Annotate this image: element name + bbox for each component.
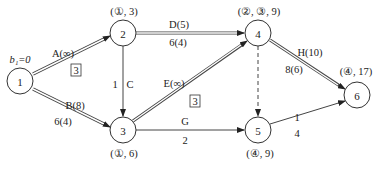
- edge-3-4-boxed: 3: [192, 96, 197, 107]
- node-2-label: 2: [120, 28, 126, 40]
- edge-1-3-lower: 6(4): [54, 116, 72, 128]
- node-6: 6: [344, 82, 370, 108]
- edge-5-6-name: 1: [294, 112, 299, 123]
- edge-2-3-lower: 1: [112, 79, 117, 90]
- node-1: 1: [7, 68, 33, 94]
- node-1-label: 1: [17, 76, 23, 88]
- node-3-annotation: (①, 6): [110, 148, 138, 160]
- edge-5-6: [270, 101, 345, 124]
- edge-2-3-name: C: [126, 79, 133, 90]
- network-diagram: 1 2 3 4 5 6 b₁=0 (①, 3) (①, 6) (②, ③, 9)…: [0, 0, 377, 174]
- edge-3-5-lower: 2: [182, 135, 187, 146]
- node-6-label: 6: [354, 90, 360, 102]
- node-4: 4: [245, 20, 271, 46]
- edge-3-5-name: G: [181, 116, 189, 127]
- edge-5-6-lower: 4: [294, 128, 300, 139]
- node-3: 3: [110, 117, 136, 143]
- edge-3-4: [133, 41, 247, 121]
- edge-3-4-name: E(∞): [164, 78, 185, 90]
- node-3-label: 3: [120, 125, 126, 137]
- node-6-annotation: (④, 17): [340, 66, 373, 78]
- edge-1-3-name: B(8): [65, 100, 85, 112]
- edge-1-2-name: A(∞): [52, 48, 75, 60]
- node-5: 5: [245, 117, 271, 143]
- edge-2-4-name: D(5): [169, 19, 189, 31]
- source-label: b₁=0: [9, 54, 31, 65]
- node-4-annotation: (②, ③, 9): [238, 6, 281, 18]
- edge-4-6-lower: 8(6): [285, 64, 303, 76]
- node-5-annotation: (④, 9): [246, 148, 274, 160]
- node-2-annotation: (①, 3): [110, 6, 138, 18]
- node-5-label: 5: [255, 125, 261, 137]
- node-2: 2: [110, 20, 136, 46]
- edge-2-4-lower: 6(4): [169, 37, 187, 49]
- edge-1-2-boxed: 3: [73, 65, 78, 76]
- node-4-label: 4: [255, 28, 261, 40]
- edge-4-6-name: H(10): [297, 47, 323, 59]
